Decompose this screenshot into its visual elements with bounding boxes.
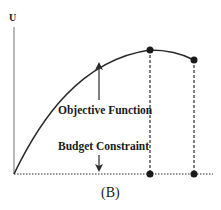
figure-caption: (B) xyxy=(101,185,120,201)
optimum-point xyxy=(147,47,154,54)
endpoint-base-point xyxy=(191,171,198,178)
utility-diagram: U Objective Function Budget Constraint (… xyxy=(0,0,221,210)
budget-constraint-label: Budget Constraint xyxy=(58,140,149,153)
objective-function-label: Objective Function xyxy=(58,104,153,117)
endpoint-point xyxy=(191,57,198,64)
optimum-base-point xyxy=(147,171,154,178)
y-axis-label: U xyxy=(9,12,16,23)
